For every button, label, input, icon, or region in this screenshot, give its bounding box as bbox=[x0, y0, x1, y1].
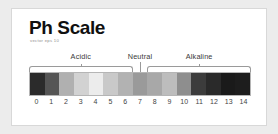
ph-scale-card: Ph Scale vector eps 10 AcidicNeutralAlka… bbox=[11, 8, 267, 126]
ph-segment bbox=[147, 73, 162, 95]
ph-segment bbox=[191, 73, 206, 95]
ph-segment bbox=[235, 73, 250, 95]
ph-tick-label: 9 bbox=[162, 96, 177, 108]
ph-segment bbox=[162, 73, 177, 95]
ph-segment bbox=[74, 73, 89, 95]
ph-segment bbox=[59, 73, 74, 95]
ph-segment bbox=[103, 73, 118, 95]
page-root: Ph Scale vector eps 10 AcidicNeutralAlka… bbox=[0, 0, 278, 134]
ph-tick-label: 7 bbox=[133, 96, 148, 108]
bracket-nub-icon bbox=[81, 64, 82, 67]
ph-segment bbox=[133, 73, 148, 95]
zone-label: Neutral bbox=[128, 52, 153, 61]
ph-tick-label: 6 bbox=[118, 96, 133, 108]
ph-tick-label: 13 bbox=[221, 96, 236, 108]
zone-label: Acidic bbox=[71, 52, 91, 61]
ph-segment bbox=[30, 73, 45, 95]
ph-tick-label: 3 bbox=[73, 96, 88, 108]
ph-segment bbox=[89, 73, 104, 95]
ph-tick-label: 14 bbox=[236, 96, 251, 108]
ph-number-row: 01234567891011121314 bbox=[29, 96, 251, 108]
ph-tick-label: 2 bbox=[59, 96, 74, 108]
ph-segment bbox=[206, 73, 221, 95]
subtitle: vector eps 10 bbox=[30, 38, 59, 44]
ph-segment bbox=[118, 73, 133, 95]
ph-tick-label: 1 bbox=[44, 96, 59, 108]
ph-segment bbox=[221, 73, 236, 95]
bracket-nub-icon bbox=[199, 64, 200, 67]
ph-color-bar bbox=[29, 72, 251, 96]
ph-tick-label: 12 bbox=[207, 96, 222, 108]
ph-tick-label: 10 bbox=[177, 96, 192, 108]
zone-bracket-row bbox=[29, 63, 251, 72]
zone-tick-icon bbox=[140, 62, 141, 72]
ph-scale: AcidicNeutralAlkaline 012345678910111213… bbox=[29, 52, 251, 108]
ph-tick-label: 4 bbox=[88, 96, 103, 108]
ph-tick-label: 0 bbox=[29, 96, 44, 108]
ph-tick-label: 8 bbox=[147, 96, 162, 108]
ph-segment bbox=[177, 73, 192, 95]
zone-label: Alkaline bbox=[186, 52, 213, 61]
page-title: Ph Scale bbox=[29, 17, 105, 39]
ph-tick-label: 11 bbox=[192, 96, 207, 108]
ph-tick-label: 5 bbox=[103, 96, 118, 108]
ph-segment bbox=[45, 73, 60, 95]
